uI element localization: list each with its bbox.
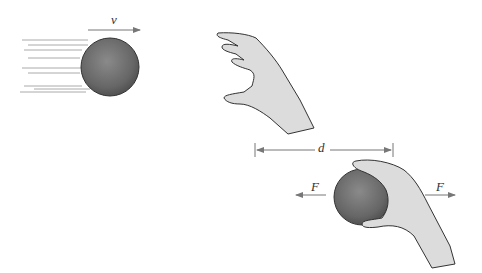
diagram-canvas: v d F F (0, 0, 482, 273)
force-right-label: F (436, 179, 444, 195)
open-hand (217, 33, 314, 134)
distance-label: d (318, 140, 325, 156)
motion-lines (20, 40, 90, 92)
velocity-label: v (111, 12, 117, 28)
force-left-label: F (311, 179, 319, 195)
flying-ball (81, 38, 139, 96)
diagram-svg (0, 0, 482, 273)
